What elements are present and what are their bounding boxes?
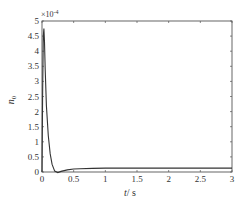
x-tick-label: 3: [230, 174, 235, 184]
x-axis-ticks: 00.511.522.53: [40, 21, 235, 184]
y-tick-label: 1: [35, 137, 40, 147]
y-tick-label: 2.5: [28, 92, 40, 102]
data-series-line: [42, 29, 232, 173]
y-tick-label: 0: [35, 167, 40, 177]
x-tick-label: 0: [40, 174, 45, 184]
y-axis-multiplier: ×10-4: [41, 9, 59, 19]
x-tick-label: 2.5: [195, 174, 207, 184]
y-tick-label: 4: [35, 46, 40, 56]
y-tick-label: 0.5: [28, 152, 40, 162]
y-tick-label: 3.5: [28, 61, 40, 71]
line-chart: 00.511.522.53 00.511.522.533.544.55 ×10-…: [0, 0, 249, 202]
x-axis-label: t/ s: [124, 187, 136, 198]
x-tick-label: 1.5: [131, 174, 143, 184]
x-tick-label: 0.5: [68, 174, 80, 184]
plot-frame: [42, 21, 232, 172]
x-tick-label: 1: [103, 174, 108, 184]
y-tick-label: 5: [35, 16, 40, 26]
y-tick-label: 4.5: [28, 31, 40, 41]
x-tick-label: 2: [166, 174, 171, 184]
y-axis-label: n0: [5, 95, 18, 104]
y-tick-label: 1.5: [28, 122, 40, 132]
y-axis-ticks: 00.511.522.533.544.55: [28, 16, 232, 177]
y-tick-label: 3: [35, 76, 40, 86]
y-tick-label: 2: [35, 107, 40, 117]
